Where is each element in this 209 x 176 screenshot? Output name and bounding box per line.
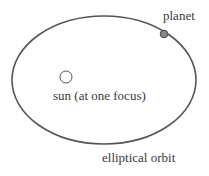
sun-label: sun (at one focus) — [53, 88, 146, 103]
elliptical-orbit-path — [12, 16, 196, 144]
orbit-diagram: planet sun (at one focus) elliptical orb… — [0, 0, 209, 176]
planet-icon — [160, 30, 168, 38]
sun-icon — [60, 71, 72, 83]
orbit-label: elliptical orbit — [102, 150, 176, 165]
planet-label: planet — [163, 8, 195, 23]
